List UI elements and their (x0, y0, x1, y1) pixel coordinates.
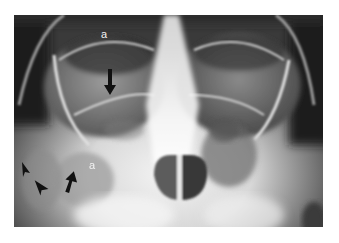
label-a-upper: a (101, 29, 107, 40)
label-a-lower: a (89, 160, 95, 171)
xray-image: a a (14, 15, 323, 227)
xray-rendering (14, 15, 323, 227)
